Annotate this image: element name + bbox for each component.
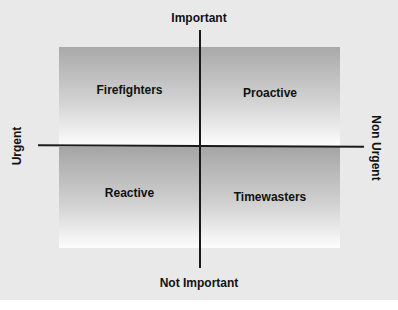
- quadrant-proactive: Proactive: [200, 47, 340, 146]
- quadrant-timewasters: Timewasters: [200, 147, 340, 248]
- quadrant-label: Timewasters: [200, 190, 340, 204]
- quadrant-label: Firefighters: [59, 83, 200, 97]
- axis-label-non-urgent: Non Urgent: [369, 115, 383, 180]
- axis-label-urgent: Urgent: [10, 127, 24, 166]
- axis-label-important: Important: [0, 11, 398, 25]
- axis-label-not-important: Not Important: [0, 276, 398, 290]
- quadrant-reactive: Reactive: [59, 147, 200, 248]
- quadrant-label: Reactive: [59, 186, 200, 200]
- quadrant-firefighters: Firefighters: [59, 47, 200, 146]
- quadrant-label: Proactive: [200, 86, 340, 100]
- importance-axis-line: [199, 30, 201, 268]
